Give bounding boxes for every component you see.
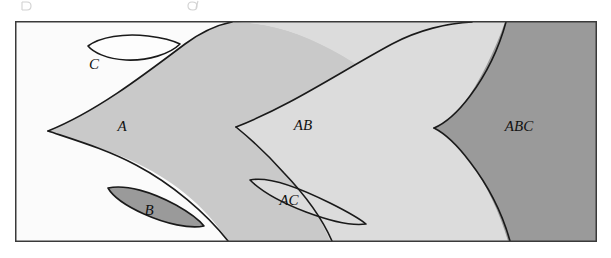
- region-label-c: C: [89, 56, 100, 72]
- region-label-abc: ABC: [504, 118, 534, 134]
- figure-root: C A B AB AC ABC: [0, 0, 611, 258]
- region-label-ab: AB: [293, 117, 312, 133]
- region-label-ac: AC: [278, 192, 299, 208]
- region-diagram: C A B AB AC ABC: [0, 0, 611, 258]
- region-label-b: B: [144, 202, 153, 218]
- region-label-a: A: [116, 118, 127, 134]
